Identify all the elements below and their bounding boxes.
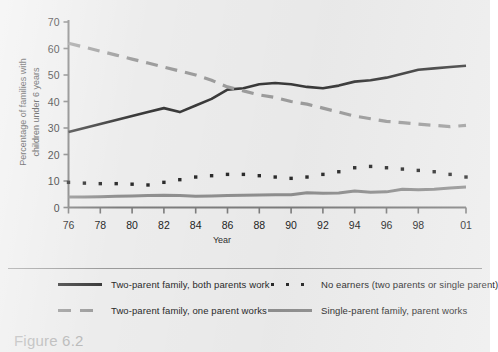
data-point [369,165,372,168]
data-point [274,175,277,178]
svg-text:50: 50 [48,69,60,81]
chart-plot-area: 010203040506070 767880828486889092949698… [0,0,490,262]
chart-legend: Two-parent family, both parents work No … [0,262,490,324]
chart-series-group [67,43,468,197]
data-point [226,173,229,176]
data-point [464,175,467,178]
svg-text:40: 40 [48,96,60,108]
legend-item-two-parent-one-works[interactable]: Two-parent family, one parent works [58,304,267,316]
data-point [162,181,165,184]
data-point [99,182,102,185]
svg-text:78: 78 [94,219,106,231]
legend-swatch-dotted-icon [268,278,312,290]
svg-text:94: 94 [349,219,361,231]
legend-label-two-parent-one-works: Two-parent family, one parent works [111,305,267,316]
data-point [194,175,197,178]
legend-label-no-earners: No earners (two parents or single parent… [321,279,498,290]
data-point [305,175,308,178]
data-point [353,166,356,169]
svg-text:92: 92 [317,219,329,231]
svg-text:82: 82 [158,219,170,231]
svg-text:84: 84 [190,219,202,231]
legend-label-two-parent-both-work: Two-parent family, both parents work [111,279,270,290]
svg-text:0: 0 [54,202,60,214]
series-line [69,187,467,197]
svg-text:76: 76 [63,219,75,231]
legend-swatch-dashed-icon [58,304,102,316]
data-point [401,167,404,170]
data-point [67,181,70,184]
svg-text:60: 60 [48,43,60,55]
data-point [417,169,420,172]
svg-text:90: 90 [285,219,297,231]
svg-text:10: 10 [48,175,60,187]
legend-swatch-solid-dark-icon [58,278,102,290]
x-axis-tick-labels: 76788082848688909294969801 [63,219,472,231]
data-point [115,182,118,185]
svg-text:70: 70 [48,16,60,28]
data-point [178,178,181,181]
svg-text:20: 20 [48,149,60,161]
data-point [448,173,451,176]
data-point [210,174,213,177]
data-point [337,170,340,173]
legend-item-two-parent-both-work[interactable]: Two-parent family, both parents work [58,278,270,290]
data-point [433,170,436,173]
y-axis-tick-labels: 010203040506070 [48,16,60,214]
data-point [385,166,388,169]
svg-text:01: 01 [460,219,472,231]
svg-text:96: 96 [381,219,393,231]
legend-swatch-solid-gray-icon [268,304,312,316]
y-axis-title-line-1: Percentage of families with [18,58,28,166]
data-point [83,181,86,184]
x-axis-title: Year [213,235,231,245]
data-point [130,182,133,185]
legend-item-single-parent-works[interactable]: Single-parent family, parent works [268,304,467,316]
data-point [321,173,324,176]
legend-item-no-earners[interactable]: No earners (two parents or single parent… [268,278,498,290]
svg-text:80: 80 [126,219,138,231]
data-point [146,183,149,186]
data-point [258,174,261,177]
svg-text:86: 86 [222,219,234,231]
data-point [289,177,292,180]
svg-text:30: 30 [48,122,60,134]
svg-text:98: 98 [412,219,424,231]
figure-caption: Figure 6.2 [14,332,84,349]
legend-label-single-parent-works: Single-parent family, parent works [321,305,467,316]
y-axis-title-line-2: children under 6 years [31,67,41,157]
series-line [69,43,467,126]
legend-divider [8,268,482,269]
line-chart: 010203040506070 767880828486889092949698… [0,0,490,262]
svg-text:88: 88 [253,219,265,231]
data-point [242,173,245,176]
